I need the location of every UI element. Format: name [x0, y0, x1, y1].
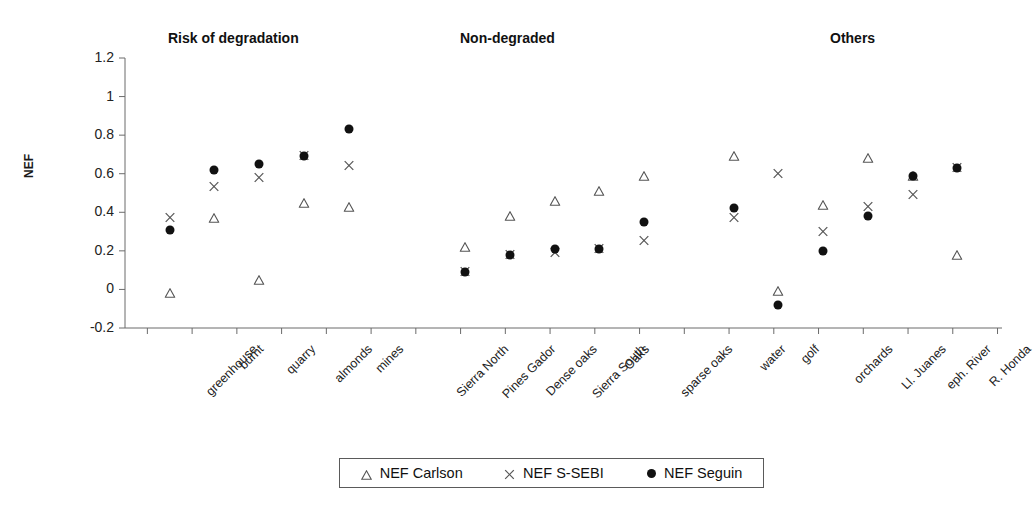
- data-point-open-triangle: [594, 182, 605, 200]
- data-point-filled-dot: [255, 160, 264, 169]
- data-point-filled-dot: [953, 163, 962, 172]
- legend-entry: NEF S-SEBI: [504, 465, 604, 481]
- data-point-filled-dot: [863, 212, 872, 221]
- data-point-open-triangle: [952, 246, 963, 264]
- data-point-open-triangle: [254, 271, 265, 289]
- data-point-filled-dot: [461, 268, 470, 277]
- data-point-open-triangle: [728, 147, 739, 165]
- legend-label: NEF Carlson: [380, 465, 463, 481]
- data-point-cross: [343, 157, 354, 175]
- data-point-filled-dot: [165, 225, 174, 234]
- data-point-filled-dot: [908, 171, 917, 180]
- data-point-open-triangle: [639, 167, 650, 185]
- data-point-open-triangle: [209, 209, 220, 227]
- data-point-cross: [639, 232, 650, 250]
- data-point-open-triangle: [773, 282, 784, 300]
- data-point-cross: [907, 186, 918, 204]
- data-point-open-triangle: [298, 194, 309, 212]
- data-point-filled-dot: [505, 250, 514, 259]
- legend-entry: NEF Seguin: [645, 465, 742, 481]
- data-point-filled-dot: [595, 244, 604, 253]
- data-point-cross: [254, 169, 265, 187]
- data-point-filled-dot: [299, 152, 308, 161]
- data-point-cross: [773, 165, 784, 183]
- data-point-filled-dot: [210, 165, 219, 174]
- data-point-open-triangle: [343, 198, 354, 216]
- legend-symbol-cross: [504, 467, 516, 479]
- data-point-filled-dot: [729, 204, 738, 213]
- data-point-filled-dot: [344, 125, 353, 134]
- data-point-open-triangle: [549, 192, 560, 210]
- data-point-open-triangle: [862, 149, 873, 167]
- data-point-open-triangle: [818, 196, 829, 214]
- data-point-cross: [818, 223, 829, 241]
- legend-entry: NEF Carlson: [361, 465, 463, 481]
- data-point-filled-dot: [640, 217, 649, 226]
- data-point-filled-dot: [774, 300, 783, 309]
- chart-legend: NEF CarlsonNEF S-SEBINEF Seguin: [339, 458, 764, 488]
- data-point-open-triangle: [460, 238, 471, 256]
- data-point-open-triangle: [504, 207, 515, 225]
- data-point-filled-dot: [819, 246, 828, 255]
- legend-label: NEF S-SEBI: [523, 465, 604, 481]
- legend-label: NEF Seguin: [664, 465, 742, 481]
- legend-symbol-open-triangle: [361, 467, 373, 479]
- data-point-open-triangle: [164, 284, 175, 302]
- data-point-filled-dot: [550, 244, 559, 253]
- data-point-cross: [209, 178, 220, 196]
- legend-symbol-filled-dot: [645, 467, 657, 479]
